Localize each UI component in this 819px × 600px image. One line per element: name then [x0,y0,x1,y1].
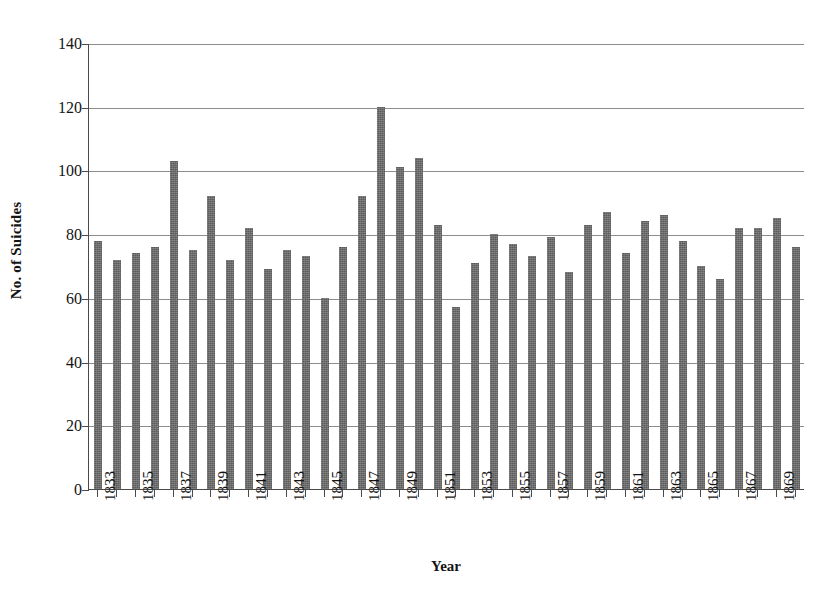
x-tick-mark [512,490,513,497]
bar [547,237,555,489]
bar [641,221,649,489]
x-tick-label: 1837 [165,500,181,552]
bar [113,260,121,489]
x-tick-mark [399,490,400,497]
bar [415,158,423,489]
bar [283,250,291,489]
x-tick-mark [305,490,306,497]
x-tick-mark [267,490,268,497]
x-tick-mark [757,490,758,497]
y-axis-title-text: No. of Suicides [9,201,26,299]
y-tick-label: 20 [36,417,82,435]
bar [584,225,592,489]
x-tick-mark [437,490,438,497]
bar [302,256,310,489]
bar [660,215,668,489]
x-tick-mark [493,490,494,497]
x-tick-mark [644,490,645,497]
bar [358,196,366,489]
y-tick-mark [82,44,89,45]
bar [754,228,762,489]
bar [189,250,197,489]
x-tick-label: 1859 [579,500,595,552]
x-tick-mark [474,490,475,497]
x-tick-mark [324,490,325,497]
bar [735,228,743,489]
bar [170,161,178,489]
x-tick-mark [192,490,193,497]
bar [716,279,724,489]
x-tick-mark [229,490,230,497]
y-tick-label: 60 [36,290,82,308]
x-tick-mark [455,490,456,497]
y-tick-label: 100 [36,162,82,180]
plot-area [88,44,804,490]
x-tick-mark [795,490,796,497]
y-tick-mark [82,426,89,427]
y-tick-mark [82,490,89,491]
bar [490,234,498,489]
x-tick-mark [776,490,777,497]
x-tick-label: 1841 [240,500,256,552]
x-tick-mark [154,490,155,497]
x-tick-label: 1861 [617,500,633,552]
y-tick-label: 80 [36,226,82,244]
bar [792,247,800,489]
x-tick-mark [380,490,381,497]
bar [434,225,442,489]
y-axis-title: No. of Suicides [0,0,34,500]
x-tick-mark [606,490,607,497]
bar [509,244,517,489]
y-tick-mark [82,363,89,364]
bar [339,247,347,489]
y-tick-label: 40 [36,354,82,372]
x-tick-label: 1863 [655,500,671,552]
x-tick-mark [568,490,569,497]
bar [528,256,536,489]
bar [264,269,272,489]
y-tick-label: 0 [36,481,82,499]
x-tick-label: 1849 [391,500,407,552]
x-tick-mark [663,490,664,497]
x-tick-label: 1869 [768,500,784,552]
y-tick-label: 120 [36,99,82,117]
x-tick-label: 1855 [504,500,520,552]
y-tick-mark [82,171,89,172]
bar [396,167,404,489]
bar [226,260,234,489]
bar [773,218,781,489]
x-tick-label: 1839 [202,500,218,552]
bar [565,272,573,489]
gridline-y-120 [89,108,804,109]
x-tick-label: 1833 [89,500,105,552]
gridline-y-140 [89,44,804,45]
x-tick-mark [550,490,551,497]
bar [245,228,253,489]
x-tick-mark [173,490,174,497]
gridline-y-80 [89,235,804,236]
bar [207,196,215,489]
bar [377,107,385,489]
x-tick-mark [682,490,683,497]
x-tick-label: 1835 [127,500,143,552]
x-tick-label: 1853 [466,500,482,552]
x-tick-mark [342,490,343,497]
bar [321,298,329,489]
bar [94,241,102,489]
x-tick-mark [719,490,720,497]
gridline-y-100 [89,171,804,172]
x-tick-mark [248,490,249,497]
bar-chart: No. of Suicides 020406080100120140 Year … [0,0,819,600]
x-axis-title: Year [88,558,804,575]
x-tick-label: 1843 [278,500,294,552]
x-tick-mark [116,490,117,497]
x-tick-mark [738,490,739,497]
x-tick-label: 1847 [353,500,369,552]
x-tick-mark [135,490,136,497]
x-tick-mark [625,490,626,497]
x-tick-label: 1851 [429,500,445,552]
x-tick-label: 1865 [692,500,708,552]
bar [603,212,611,489]
bar [622,253,630,489]
x-tick-mark [286,490,287,497]
